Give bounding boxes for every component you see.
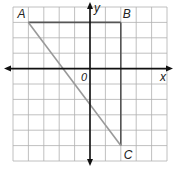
coordinate-plane: A B C x y 0: [0, 0, 177, 178]
origin-label: 0: [81, 71, 88, 83]
point-label-b: B: [123, 7, 131, 21]
y-axis-arrow-up-icon: [87, 2, 93, 9]
x-axis-arrow-left-icon: [4, 66, 11, 72]
point-label-c: C: [124, 148, 133, 162]
y-axis-arrow-down-icon: [87, 159, 93, 166]
point-label-a: A: [16, 7, 25, 21]
y-axis-label: y: [93, 1, 101, 15]
x-axis-label: x: [159, 70, 167, 84]
x-axis-arrow-right-icon: [166, 66, 173, 72]
